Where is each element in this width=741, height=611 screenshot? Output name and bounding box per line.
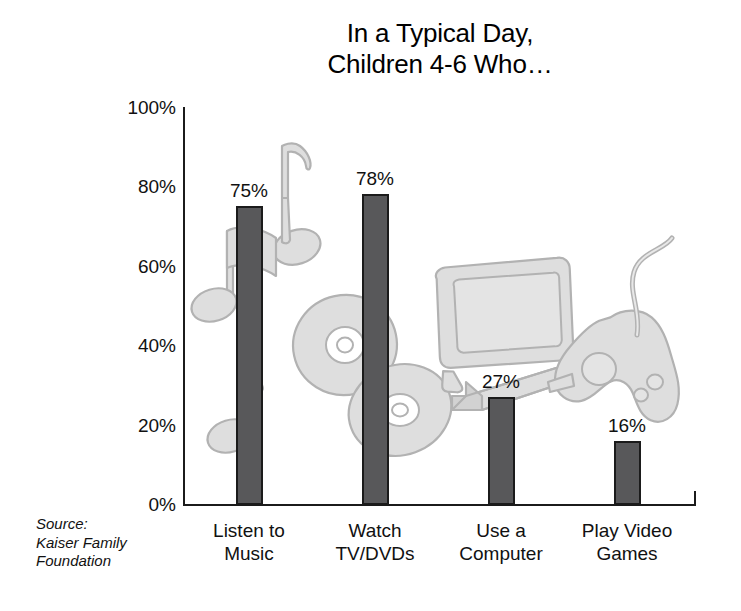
- x-axis-label-use-a-computer: Use a Computer: [459, 519, 542, 565]
- y-tick-40: 40%: [104, 335, 176, 357]
- bar-value-use-a-computer: 27%: [482, 371, 520, 393]
- x-axis-end-tick: [694, 491, 696, 506]
- y-tick-60: 60%: [104, 256, 176, 278]
- compact-disc-icon-2: [336, 350, 465, 470]
- x-axis-label-listen-to-music: Listen to Music: [213, 519, 285, 565]
- bar-listen-to-music[interactable]: [236, 206, 263, 505]
- chart-title: In a Typical Day, Children 4-6 Who…: [180, 18, 700, 79]
- x-axis-label-play-video-games: Play Video Games: [582, 519, 673, 565]
- chart-figure: In a Typical Day, Children 4-6 Who…: [0, 0, 741, 611]
- x-axis-label-watch-tv-dvds: Watch TV/DVDs: [335, 519, 414, 565]
- y-tick-0: 0%: [104, 494, 176, 516]
- y-axis-line: [183, 107, 185, 506]
- bar-value-play-video-games: 16%: [608, 415, 646, 437]
- bar-play-video-games[interactable]: [614, 441, 641, 505]
- y-tick-80: 80%: [104, 176, 176, 198]
- bar-use-a-computer[interactable]: [488, 397, 515, 505]
- source-note: Source: Kaiser Family Foundation: [36, 515, 176, 571]
- y-tick-100: 100%: [104, 97, 176, 119]
- music-notes-icon: [269, 143, 325, 270]
- y-tick-20: 20%: [104, 415, 176, 437]
- bar-value-listen-to-music: 75%: [230, 180, 268, 202]
- y-axis-tick-labels: 0% 20% 40% 60% 80% 100%: [100, 108, 176, 505]
- bar-watch-tv-dvds[interactable]: [362, 194, 389, 505]
- game-controller-icon: [548, 238, 697, 426]
- bar-value-watch-tv-dvds: 78%: [356, 168, 394, 190]
